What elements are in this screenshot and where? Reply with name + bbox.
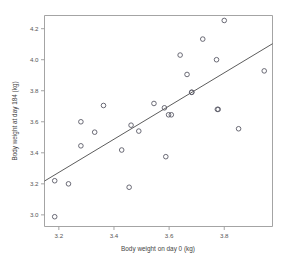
y-tick-label: 3.2 [30, 180, 39, 187]
y-tick-label: 3.6 [30, 118, 39, 125]
data-point [129, 123, 134, 128]
data-point [152, 101, 157, 106]
regression-line [45, 44, 273, 181]
tick-marks [41, 29, 224, 230]
data-points [52, 18, 266, 219]
fit-line [45, 44, 273, 181]
data-point [236, 126, 241, 131]
y-tick-labels: 3.03.23.43.63.84.04.2 [30, 25, 39, 218]
x-tick-label: 3.2 [55, 232, 64, 239]
data-point [119, 148, 124, 153]
x-tick-label: 3.6 [165, 232, 174, 239]
data-point [127, 185, 132, 190]
plot-canvas: 3.23.43.63.8 3.03.23.43.63.84.04.2 Body … [0, 0, 284, 261]
data-point [200, 37, 205, 42]
data-point [262, 69, 267, 74]
data-point [136, 129, 141, 134]
data-point [185, 72, 190, 77]
data-point [164, 154, 169, 159]
x-axis-title: Body weight on day 0 (kg) [121, 245, 195, 253]
y-axis-title: Body weight at day 184 (kg) [11, 81, 19, 160]
x-tick-label: 3.8 [220, 232, 229, 239]
data-point [169, 112, 174, 117]
data-point [79, 119, 84, 124]
scatter-plot-figure: 3.23.43.63.8 3.03.23.43.63.84.04.2 Body … [0, 0, 284, 261]
data-point [178, 53, 183, 58]
y-tick-label: 3.4 [30, 149, 39, 156]
y-tick-label: 4.0 [30, 56, 39, 63]
data-point [101, 103, 106, 108]
y-tick-label: 4.2 [30, 25, 39, 32]
y-tick-label: 3.0 [30, 211, 39, 218]
data-point [92, 130, 97, 135]
x-tick-labels: 3.23.43.63.8 [55, 232, 230, 239]
data-point [66, 182, 71, 187]
data-point [222, 18, 227, 23]
y-tick-label: 3.8 [30, 87, 39, 94]
data-point [214, 57, 219, 62]
data-point [52, 178, 57, 183]
data-point [52, 214, 57, 219]
x-tick-label: 3.4 [110, 232, 119, 239]
data-point [79, 144, 84, 149]
